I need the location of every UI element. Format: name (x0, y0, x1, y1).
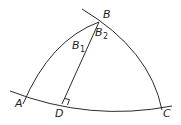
label-d: D (55, 107, 63, 120)
label-b: B (103, 8, 111, 21)
label-b2-sub: 2 (103, 32, 108, 41)
line-bd (62, 22, 99, 104)
arc-ac (10, 91, 172, 111)
right-angle-marker (65, 99, 70, 106)
label-b2-main: B (95, 26, 103, 39)
label-b2: B 2 (95, 26, 108, 41)
arc-ab (23, 22, 99, 104)
spherical-triangle-diagram: B A D C B 1 B 2 (0, 0, 181, 125)
label-b1: B 1 (72, 39, 85, 54)
label-a: A (14, 97, 23, 110)
label-b1-sub: 1 (80, 45, 85, 54)
label-b1-main: B (72, 39, 80, 52)
label-c: C (163, 107, 171, 120)
